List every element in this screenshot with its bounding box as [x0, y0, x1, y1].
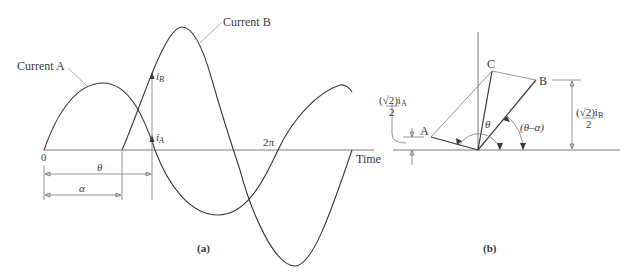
origin-label: 0	[41, 151, 47, 163]
theta-angle-label: θ	[485, 118, 491, 130]
tma-arc-end-arrowhead-icon	[520, 143, 526, 150]
point-a-label: A	[420, 124, 429, 138]
two-pi-label: 2π	[263, 136, 275, 148]
current-b-label: Current B	[223, 15, 271, 29]
figure-b: A B C θ (θ–α) (√2)iA 2 (√2)iB 2 (b)	[379, 32, 620, 255]
point-b-label: B	[539, 74, 547, 88]
alpha-label: α	[79, 182, 85, 194]
theta-label: θ	[97, 161, 103, 173]
i-b-arrowhead-icon	[150, 72, 155, 79]
point-c-label: C	[487, 57, 495, 71]
phasor-a	[431, 137, 478, 150]
tma-arc-start-arrowhead-icon	[503, 116, 510, 122]
current-a-leader	[68, 68, 87, 86]
parallelogram-side-cb	[492, 71, 536, 80]
current-b-waveform	[122, 27, 352, 266]
caption-a: (a)	[197, 242, 210, 255]
phasor-c	[478, 71, 492, 150]
theta-minus-alpha-label: (θ–α)	[520, 121, 544, 134]
dim-a-denominator: 2	[389, 106, 395, 118]
figure-a: Current A Current B 0 2π Time θ α iB iA …	[17, 15, 381, 266]
theta-arc-arrowhead-icon	[456, 138, 462, 145]
i-a-label: iA	[156, 131, 164, 145]
current-b-leader	[200, 22, 222, 43]
dim-b-denominator: 2	[586, 118, 592, 130]
parallelogram-side-ac	[431, 71, 492, 137]
current-a-label: Current A	[17, 59, 65, 73]
phasor-b	[478, 80, 536, 150]
time-label: Time	[356, 152, 381, 166]
caption-b: (b)	[483, 242, 497, 255]
i-b-label: iB	[156, 70, 164, 84]
theta-arc-end-arrowhead-icon	[497, 143, 503, 150]
figure-canvas: Current A Current B 0 2π Time θ α iB iA …	[0, 0, 622, 279]
